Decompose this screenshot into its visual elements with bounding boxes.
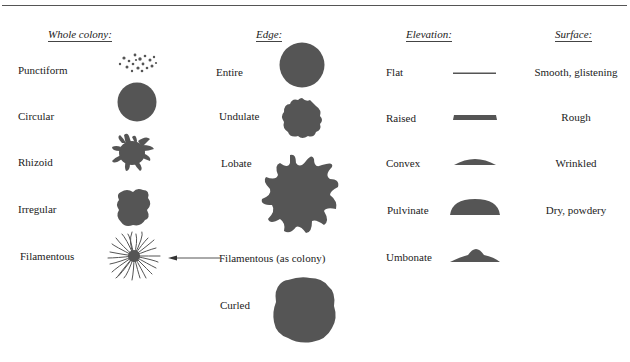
header-edge: Edge:: [256, 28, 282, 42]
label-entire: Entire: [216, 66, 243, 78]
label-smooth-glistening: Smooth, glistening: [524, 66, 628, 78]
header-whole-colony: Whole colony:: [48, 28, 112, 42]
label-irregular: Irregular: [18, 203, 56, 215]
filamentous-icon: [108, 232, 160, 280]
top-rule: [2, 5, 627, 6]
convex-elevation-icon: [454, 157, 496, 165]
curled-edge-icon: [272, 276, 338, 344]
arrow-left-icon: [168, 254, 220, 262]
header-surface: Surface:: [555, 28, 592, 42]
rhizoid-icon: [110, 131, 156, 173]
circular-icon: [117, 82, 157, 122]
label-raised: Raised: [386, 112, 416, 124]
label-dry-powdery: Dry, powdery: [524, 204, 628, 216]
label-rough: Rough: [524, 111, 628, 123]
label-flat: Flat: [386, 66, 403, 78]
irregular-icon: [113, 186, 153, 228]
punctiform-icon: [116, 50, 160, 76]
label-filamentous: Filamentous: [20, 250, 74, 262]
label-curled: Curled: [220, 299, 250, 311]
umbonate-elevation-icon: [450, 249, 500, 262]
label-convex: Convex: [386, 157, 420, 169]
label-rhizoid: Rhizoid: [18, 156, 53, 168]
label-lobate: Lobate: [221, 157, 252, 169]
lobate-edge-icon: [260, 153, 344, 235]
raised-elevation-icon: [453, 115, 497, 121]
label-pulvinate: Pulvinate: [387, 204, 429, 216]
label-filamentous-as-colony: Filamentous (as colony): [219, 252, 325, 264]
flat-elevation-icon: [453, 72, 496, 75]
label-punctiform: Punctiform: [18, 64, 68, 76]
label-circular: Circular: [18, 110, 54, 122]
label-undulate: Undulate: [219, 110, 259, 122]
pulvinate-elevation-icon: [450, 199, 500, 215]
label-umbonate: Umbonate: [386, 251, 432, 263]
label-wrinkled: Wrinkled: [524, 157, 628, 169]
undulate-edge-icon: [280, 96, 324, 140]
header-elevation: Elevation:: [406, 28, 452, 42]
entire-edge-icon: [279, 42, 325, 88]
